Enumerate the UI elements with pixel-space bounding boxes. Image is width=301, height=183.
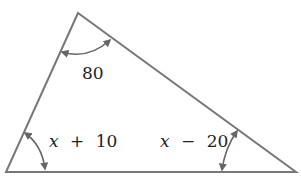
angle-label-right-op: −: [181, 131, 195, 151]
angle-arc-left: [25, 133, 45, 169]
angle-label-left: x + 10: [49, 131, 117, 151]
angle-label-right-var: x: [160, 131, 170, 151]
angle-label-left-var: x: [49, 131, 59, 151]
angle-label-left-op: +: [70, 131, 84, 151]
angle-label-top: 80: [82, 63, 104, 83]
angle-label-left-num: 10: [96, 131, 118, 151]
angle-label-right: x − 20: [160, 131, 228, 151]
angle-arc-top: [62, 40, 110, 54]
triangle-diagram: 80 x + 10 x − 20: [0, 0, 301, 183]
angle-label-right-num: 20: [207, 131, 229, 151]
